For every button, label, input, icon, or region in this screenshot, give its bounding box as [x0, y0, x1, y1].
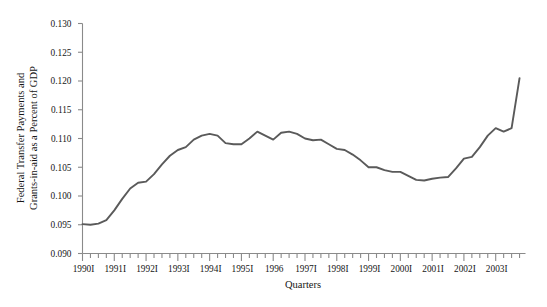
x-tick-label: 1995I [232, 264, 254, 274]
y-tick-label: 0.120 [51, 76, 72, 86]
y-tick-label: 0.095 [51, 220, 72, 230]
y-axis-label-line1: Federal Transfer Payments and [15, 72, 26, 203]
data-series-line [83, 78, 520, 225]
y-axis-label: Federal Transfer Payments and Grants-in-… [15, 66, 39, 210]
x-tick-label: 2000I [390, 264, 412, 274]
x-tick-label: 1996 [265, 264, 284, 274]
x-tick-label: 1999I [359, 264, 381, 274]
y-tick-label: 0.105 [51, 163, 72, 173]
x-tick-label: 2002I [454, 264, 476, 274]
y-axis-label-line2: Grants-in-aid as a Percent of GDP [28, 66, 39, 210]
x-tick-label: 2001I [422, 264, 444, 274]
line-chart: Federal Transfer Payments and Grants-in-… [0, 0, 547, 307]
x-tick-label: 1994I [200, 264, 222, 274]
y-tick-label: 0.090 [51, 249, 72, 259]
y-tick-label: 0.110 [51, 134, 72, 144]
x-tick-label: 2003I [486, 264, 508, 274]
y-tick-label: 0.115 [51, 105, 72, 115]
x-axis-title: Quarters [285, 279, 321, 290]
x-tick-label: 1990I [73, 264, 95, 274]
y-tick-label: 0.100 [51, 191, 72, 201]
x-tick-labels: 1990I1991I1992I1993I1994I1995I19961997I1… [73, 264, 508, 274]
x-tick-label: 1997I [295, 264, 317, 274]
chart-figure: Federal Transfer Payments and Grants-in-… [0, 0, 547, 307]
x-tick-label: 1991I [104, 264, 126, 274]
x-tick-label: 1992I [136, 264, 158, 274]
y-tick-label: 0.125 [51, 48, 72, 58]
y-tick-label: 0.130 [51, 19, 72, 29]
x-tick-marks [83, 254, 520, 262]
x-tick-label: 1998I [327, 264, 349, 274]
y-tick-marks [78, 24, 83, 254]
y-tick-labels: 0.0900.0950.1000.1050.1100.1150.1200.125… [51, 19, 72, 259]
x-tick-label: 1993I [168, 264, 190, 274]
